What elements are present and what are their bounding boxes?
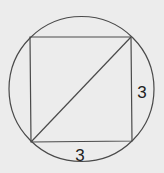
square-diagonal [31, 37, 131, 142]
right-side-length-label: 3 [137, 83, 146, 102]
bottom-side-length-label: 3 [75, 146, 84, 165]
inscribed-square-diagram: 3 3 [0, 0, 164, 173]
